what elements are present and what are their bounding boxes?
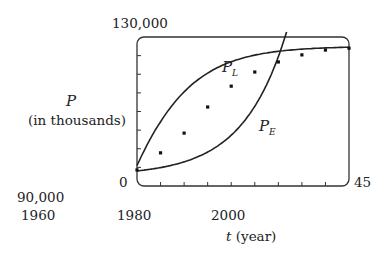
pl-curve-label: PL (222, 60, 238, 78)
x-right-label: 45 (354, 176, 371, 190)
x-axis-title: t (year) (226, 230, 276, 244)
data-point (324, 48, 327, 51)
y-axis-unit: (in thousands) (28, 114, 126, 128)
x-tick-1980: 1980 (117, 209, 151, 223)
x-tick-1960: 1960 (21, 209, 55, 223)
data-point (135, 168, 138, 171)
x-zero-label: 0 (119, 176, 128, 190)
y-top-label: 130,000 (112, 17, 168, 31)
data-point (230, 85, 233, 88)
plot-frame (137, 37, 349, 186)
y-bottom-label: 90,000 (17, 191, 64, 205)
data-point (277, 60, 280, 63)
data-point (183, 132, 186, 135)
chart-plot (0, 0, 387, 262)
pl-label-main: P (222, 58, 232, 76)
x-axis-var: t (226, 228, 231, 244)
x-axis-unit: (year) (236, 228, 277, 244)
pe-curve-label: PE (259, 119, 276, 137)
data-points (135, 47, 350, 172)
pe-label-main: P (259, 117, 269, 135)
y-axis-var: P (66, 94, 76, 109)
x-tick-2000: 2000 (211, 209, 245, 223)
pl-curve (137, 47, 349, 165)
data-point (206, 105, 209, 108)
data-point (253, 70, 256, 73)
pe-label-sub: E (269, 127, 276, 137)
pl-label-sub: L (232, 68, 238, 78)
data-point (159, 151, 162, 154)
data-point (347, 47, 350, 50)
data-point (300, 53, 303, 56)
